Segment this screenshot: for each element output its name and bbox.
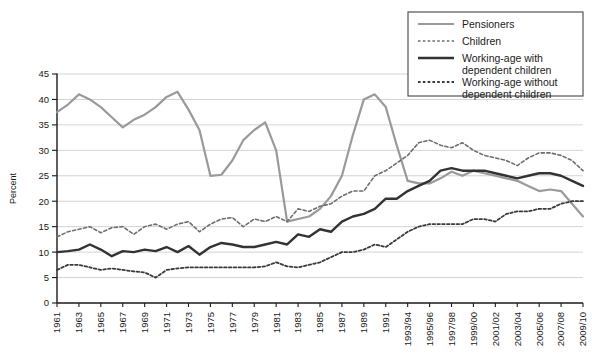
- x-tick-label: 1989: [358, 312, 369, 333]
- y-tick-label: 35: [38, 119, 49, 130]
- x-tick-label: 1983: [292, 312, 303, 333]
- legend: PensionersChildrenWorking-age withdepend…: [408, 12, 583, 100]
- x-tick-label: 1963: [73, 312, 84, 333]
- y-tick-label: 5: [44, 272, 49, 283]
- x-tick-label: 1985: [314, 312, 325, 333]
- x-tick-label: 1975: [205, 312, 216, 333]
- x-tick-label: 1961: [51, 312, 62, 333]
- y-tick-label: 20: [38, 196, 49, 207]
- x-tick-label: 1995/96: [424, 312, 435, 346]
- x-tick-label: 1979: [249, 312, 260, 333]
- gridlines: 051015202530354045: [38, 68, 583, 308]
- x-tick-label: 1967: [117, 312, 128, 333]
- series-line-2: [57, 168, 583, 256]
- x-tick-labels: 1961196319651967196919711973197519771979…: [51, 303, 588, 346]
- x-tick-label: 1969: [139, 312, 150, 333]
- y-tick-label: 40: [38, 94, 49, 105]
- y-tick-label: 0: [44, 297, 49, 308]
- series-group: [57, 92, 583, 278]
- axes: [57, 74, 583, 304]
- x-tick-label: 1981: [271, 312, 282, 333]
- series-line-3: [57, 201, 583, 277]
- legend-label-3: dependent children: [462, 88, 551, 100]
- x-tick-label: 1965: [95, 312, 106, 333]
- x-tick-label: 1999/00: [468, 312, 479, 346]
- x-tick-label: 2003/04: [512, 312, 523, 346]
- x-tick-label: 1977: [227, 312, 238, 333]
- x-tick-label: 2001/02: [490, 312, 501, 346]
- x-tick-label: 1973: [183, 312, 194, 333]
- x-tick-label: 1991: [380, 312, 391, 333]
- x-tick-label: 2007/08: [555, 312, 566, 346]
- series-line-1: [57, 140, 583, 237]
- legend-label-0: Pensioners: [462, 18, 515, 30]
- line-chart: 051015202530354045Percent196119631965196…: [0, 0, 592, 357]
- x-tick-label: 2009/10: [577, 312, 588, 346]
- legend-label-3: Working-age without: [462, 76, 558, 88]
- chart-container: 051015202530354045Percent196119631965196…: [0, 0, 592, 357]
- y-tick-label: 25: [38, 170, 49, 181]
- y-tick-label: 10: [38, 247, 49, 258]
- legend-label-2: dependent children: [462, 64, 551, 76]
- x-tick-label: 1971: [161, 312, 172, 333]
- y-tick-label: 45: [38, 68, 49, 79]
- x-tick-label: 1987: [336, 312, 347, 333]
- y-tick-label: 30: [38, 145, 49, 156]
- x-tick-label: 1993/94: [402, 312, 413, 346]
- y-axis-title: Percent: [8, 172, 18, 204]
- y-tick-label: 15: [38, 221, 49, 232]
- series-line-0: [57, 92, 583, 222]
- x-tick-label: 1997/98: [446, 312, 457, 346]
- legend-label-2: Working-age with: [462, 52, 543, 64]
- x-tick-label: 2005/06: [534, 312, 545, 346]
- legend-label-1: Children: [462, 35, 501, 47]
